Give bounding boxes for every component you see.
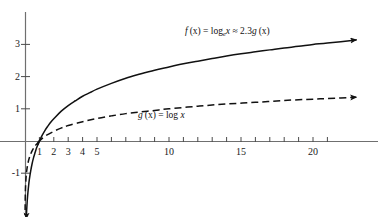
y-tick-label: 2 [4,72,20,82]
f-approx-sign: ≈ [232,26,237,36]
f-variable: x [226,26,230,36]
g-variable: x [180,110,184,120]
g-equals: = [158,110,163,120]
g-argument-inline: (x) [259,26,270,36]
f-equals: = [203,26,208,36]
f-symbol: f [185,26,188,36]
x-tick-label: 2 [51,147,56,157]
y-tick-label: -1 [4,168,20,178]
common-log-curve [38,97,356,142]
x-tick-label: 10 [164,147,174,157]
logarithm-comparison-figure: 12345101520 -1123 f(x) = logex ≈ 2.3g(x)… [0,0,381,217]
g-symbol: g [138,110,143,120]
x-axis-ticks [39,137,327,142]
f-log-base: e [223,30,226,37]
x-tick-label: 3 [66,147,71,157]
y-tick-label: 1 [4,104,20,114]
f-argument: (x) [190,26,201,36]
x-tick-label: 4 [80,147,85,157]
x-tick-label: 15 [236,147,246,157]
axes [0,12,378,214]
x-tick-label: 20 [308,147,318,157]
g-log: log [166,110,178,120]
f-log: log [211,26,223,36]
g-symbol-inline: g [252,26,257,36]
g-curve-annotation: g(x) = log x [138,111,185,121]
f-curve-annotation: f(x) = logex ≈ 2.3g(x) [185,27,270,37]
g-argument: (x) [145,110,156,120]
x-tick-label: 5 [95,147,100,157]
f-coefficient: 2.3 [240,26,252,36]
natural-log-curve [38,40,356,145]
x-tick-label: 1 [37,147,42,157]
y-tick-label: 3 [4,39,20,49]
